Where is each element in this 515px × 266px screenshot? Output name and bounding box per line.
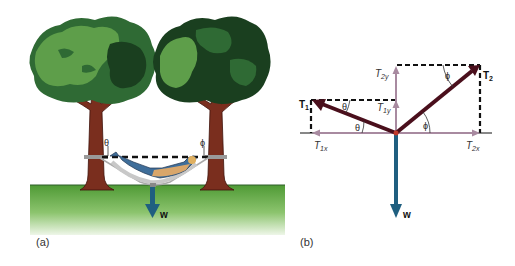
- phi-label-upper: ϕ: [445, 71, 450, 81]
- hammock-diagram: θ ϕ w: [0, 0, 515, 266]
- T2x-label: T2x: [466, 140, 480, 152]
- T2y-label: T2y: [375, 68, 389, 81]
- grass: [30, 185, 285, 235]
- T2-label: T2: [483, 70, 493, 82]
- weight-label-b: w: [402, 209, 411, 220]
- caption-b: (b): [300, 236, 313, 248]
- T2x-component-arrow: [396, 130, 480, 137]
- phi-label-lower: ϕ: [423, 121, 428, 131]
- right-tree: [153, 16, 271, 190]
- T1x-label: T1x: [314, 140, 328, 152]
- weight-label-a: w: [159, 209, 168, 220]
- theta-label-lower: θ: [355, 123, 360, 133]
- panel-a-scene: θ ϕ w: [29, 16, 285, 235]
- theta-label-a: θ: [104, 138, 109, 148]
- T1-label: T1: [299, 99, 309, 111]
- T2-vector: [396, 65, 480, 133]
- caption-a: (a): [36, 236, 49, 248]
- T1y-label: T1y: [377, 102, 391, 115]
- T1y-arrowhead: [393, 100, 400, 108]
- panel-b-free-body-diagram: θ θ ϕ ϕ T1 T2 T1x T2x T1y T2y w: [299, 65, 493, 220]
- phi-label-a: ϕ: [200, 138, 205, 148]
- T1x-component-arrow: [312, 130, 396, 137]
- weight-vector-b: [390, 133, 402, 218]
- theta-label-upper: θ: [342, 102, 347, 112]
- T1-vector: [312, 99, 396, 133]
